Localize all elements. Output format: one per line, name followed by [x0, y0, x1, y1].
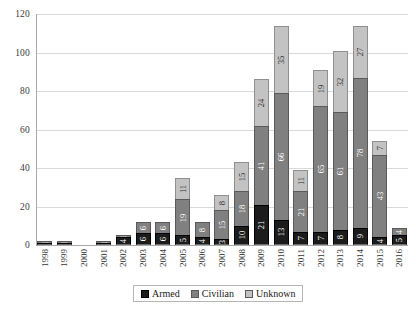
bar-column[interactable]: 356613	[274, 14, 289, 245]
stacked-bar-chart: 020406080100120 111111146666111958481531…	[0, 0, 416, 312]
bar-column[interactable]: 14	[116, 14, 131, 245]
bar-segment-unknown[interactable]: 8	[214, 195, 229, 210]
bar-value-label: 6	[159, 237, 168, 241]
bar-segment-civilian[interactable]: 65	[313, 106, 328, 231]
bar-value-label: 4	[119, 239, 128, 243]
bar-value-label: 7	[297, 236, 306, 240]
bar-column[interactable]: 27789	[353, 14, 368, 245]
bar-column[interactable]: 11	[57, 14, 72, 245]
bar-segment-civilian[interactable]: 15	[214, 210, 229, 239]
bar-segment-unknown[interactable]: 19	[313, 70, 328, 107]
x-axis-tick: 2013	[333, 247, 348, 283]
bar-value-label: 8	[218, 201, 227, 205]
bar-segment-armed[interactable]: 7	[293, 232, 308, 245]
bar-value-label: 5	[178, 238, 187, 242]
bar-segment-unknown[interactable]: 15	[234, 162, 249, 191]
bar-segment-civilian[interactable]: 21	[293, 191, 308, 231]
bar-segment-unknown[interactable]: 27	[353, 26, 368, 78]
x-axis-tick: 2006	[195, 247, 210, 283]
bar-segment-unknown[interactable]: 32	[333, 51, 348, 113]
bar-segment-civilian[interactable]: 61	[333, 112, 348, 229]
bar-column[interactable]: 11	[37, 14, 52, 245]
bar-segment-armed[interactable]: 5	[175, 235, 190, 245]
bar-segment-armed[interactable]: 4	[116, 237, 131, 245]
bar-column[interactable]: 84	[195, 14, 210, 245]
bar-value-label: 27	[356, 48, 365, 57]
bar-segment-civilian[interactable]: 66	[274, 93, 289, 220]
bar-value-label: 19	[316, 84, 325, 93]
bar-segment-armed[interactable]: 1	[96, 243, 111, 245]
chart-legend: ArmedCivilianUnknown	[133, 285, 303, 302]
bar-segment-civilian[interactable]: 4	[392, 228, 407, 236]
bar-column[interactable]: 45	[392, 14, 407, 245]
bar-column[interactable]: 7434	[372, 14, 387, 245]
x-axis-tick-label: 2005	[178, 249, 188, 267]
bar-column[interactable]: 66	[155, 14, 170, 245]
bar-value-label: 43	[375, 192, 384, 201]
legend-item-civilian[interactable]: Civilian	[191, 288, 234, 299]
bar-segment-armed[interactable]: 21	[254, 205, 269, 245]
bar-column[interactable]: 66	[136, 14, 151, 245]
bar-segment-unknown[interactable]: 11	[293, 170, 308, 191]
x-axis-tick: 2012	[313, 247, 328, 283]
bar-segment-armed[interactable]: 4	[372, 237, 387, 245]
x-axis-tick: 2010	[274, 247, 289, 283]
bar-column[interactable]: 8153	[214, 14, 229, 245]
bar-segment-unknown[interactable]: 35	[274, 26, 289, 93]
bar-column[interactable]: 11	[96, 14, 111, 245]
bar-column[interactable]: 19657	[313, 14, 328, 245]
bar-column[interactable]: 32618	[333, 14, 348, 245]
bar-segment-armed[interactable]: 13	[274, 220, 289, 245]
bar-segment-armed[interactable]: 7	[313, 232, 328, 245]
y-axis-tick-label: 80	[20, 86, 30, 96]
bar-column[interactable]	[76, 14, 91, 245]
bar-segment-civilian[interactable]: 19	[175, 199, 190, 236]
bar-segment-civilian[interactable]: 8	[195, 222, 210, 237]
x-axis-tick: 2003	[136, 247, 151, 283]
legend-item-label: Unknown	[256, 288, 295, 299]
legend-item-unknown[interactable]: Unknown	[245, 288, 295, 299]
y-axis-tick-label: 20	[20, 202, 30, 212]
x-axis-tick-label: 2016	[394, 249, 404, 267]
x-axis-tick: 2014	[353, 247, 368, 283]
bar-segment-unknown[interactable]: 11	[175, 178, 190, 199]
bar-series-container: 1111111466661119584815315181024412135661…	[37, 14, 407, 245]
bar-segment-armed[interactable]: 3	[214, 239, 229, 245]
bar-segment-armed[interactable]: 4	[195, 237, 210, 245]
bar-value-label: 1	[40, 243, 49, 245]
bar-value-label: 8	[198, 228, 207, 232]
bar-value-label: 61	[336, 167, 345, 176]
bar-segment-armed[interactable]: 1	[37, 243, 52, 245]
bar-segment-armed[interactable]: 5	[392, 235, 407, 245]
bar-column[interactable]: 151810	[234, 14, 249, 245]
bar-segment-armed[interactable]: 8	[333, 230, 348, 245]
bar-segment-civilian[interactable]: 78	[353, 78, 368, 228]
bar-column[interactable]: 244121	[254, 14, 269, 245]
x-axis-tick-label: 2006	[197, 249, 207, 267]
bar-segment-armed[interactable]: 1	[57, 243, 72, 245]
bar-segment-civilian[interactable]: 6	[155, 222, 170, 234]
bar-segment-armed[interactable]: 6	[136, 233, 151, 245]
bar-segment-civilian[interactable]: 43	[372, 155, 387, 238]
bar-value-label: 4	[198, 239, 207, 243]
legend-item-armed[interactable]: Armed	[141, 288, 180, 299]
bar-column[interactable]: 11217	[293, 14, 308, 245]
bar-value-label: 7	[316, 236, 325, 240]
bar-value-label: 1	[99, 243, 108, 245]
bar-segment-armed[interactable]: 10	[234, 226, 249, 245]
bar-segment-civilian[interactable]: 41	[254, 126, 269, 205]
bar-value-label: 78	[356, 149, 365, 158]
bar-segment-unknown[interactable]: 24	[254, 79, 269, 125]
bar-segment-civilian[interactable]: 18	[234, 191, 249, 226]
x-axis-tick: 2008	[234, 247, 249, 283]
unknown-swatch	[245, 290, 253, 298]
bar-segment-civilian[interactable]: 6	[136, 222, 151, 234]
x-axis-tick-label: 2003	[138, 249, 148, 267]
bar-segment-unknown[interactable]: 7	[372, 141, 387, 154]
bar-value-label: 41	[257, 161, 266, 170]
bar-value-label: 6	[139, 237, 148, 241]
bar-segment-armed[interactable]: 6	[155, 233, 170, 245]
bar-segment-armed[interactable]: 9	[353, 228, 368, 245]
bar-column[interactable]: 11195	[175, 14, 190, 245]
x-axis-tick-label: 2014	[355, 249, 365, 267]
